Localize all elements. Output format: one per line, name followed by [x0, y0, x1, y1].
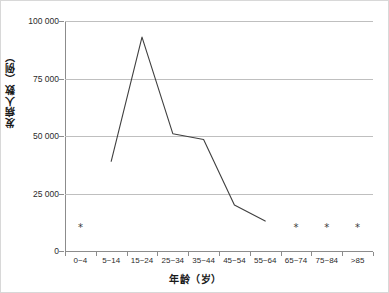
x-axis-tick-label: 25~34	[162, 257, 184, 266]
x-axis-tick-mark	[188, 252, 189, 256]
asterisk-marker: *	[324, 223, 329, 233]
gridline	[65, 79, 373, 80]
y-axis-tick-label: 75 000	[33, 74, 59, 83]
y-axis-tick-label: 100 000	[28, 17, 59, 26]
y-axis-tick-mark	[59, 21, 64, 22]
x-axis-tick-mark	[342, 252, 343, 256]
x-axis-tick-label: 0~4	[74, 257, 88, 266]
x-axis-tick-label: 35~44	[192, 257, 214, 266]
x-axis-tick-mark	[127, 252, 128, 256]
x-axis-tick-label: 65~74	[285, 257, 307, 266]
y-axis-tick-label: 50 000	[33, 132, 59, 141]
y-axis-tick-mark	[59, 194, 64, 195]
y-axis-tick-label: 25 000	[33, 189, 59, 198]
x-axis-tick-mark	[219, 252, 220, 256]
x-axis-tick-label: 15~24	[131, 257, 153, 266]
gridline	[65, 136, 373, 137]
y-axis-tick-mark	[59, 251, 64, 252]
asterisk-marker: *	[294, 223, 299, 233]
gridline	[65, 194, 373, 195]
x-axis-tick-mark	[96, 252, 97, 256]
y-axis-tick-mark	[59, 136, 64, 137]
x-axis-title: 年龄（岁）	[1, 271, 389, 286]
y-axis-tick-mark	[59, 79, 64, 80]
x-axis-tick-label: 5~14	[102, 257, 120, 266]
x-axis-tick-label: >85	[351, 257, 365, 266]
x-axis-tick-mark	[373, 252, 374, 256]
gridline	[65, 21, 373, 22]
plot-area	[65, 21, 373, 251]
x-axis-tick-mark	[65, 252, 66, 256]
x-axis-tick-label: 55~64	[254, 257, 276, 266]
x-axis-tick-mark	[281, 252, 282, 256]
chart-figure: 发病人数（例） 025 00050 00075 000100 000 0~45~…	[0, 0, 389, 293]
asterisk-marker: *	[78, 223, 83, 233]
x-axis-tick-mark	[311, 252, 312, 256]
x-axis-tick-label: 45~54	[223, 257, 245, 266]
asterisk-marker: *	[355, 223, 360, 233]
x-axis-tick-mark	[157, 252, 158, 256]
x-axis-tick-label: 75~84	[316, 257, 338, 266]
y-axis-tick-labels: 025 00050 00075 000100 000	[1, 21, 59, 251]
x-axis-tick-mark	[250, 252, 251, 256]
